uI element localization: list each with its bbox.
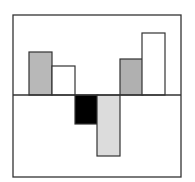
bar-2 xyxy=(52,66,75,95)
bar-1 xyxy=(29,52,52,95)
bar-chart xyxy=(0,0,195,182)
bar-5 xyxy=(120,59,143,95)
bar-4 xyxy=(97,95,120,156)
bar-3 xyxy=(75,95,98,124)
bar-6 xyxy=(142,33,165,95)
